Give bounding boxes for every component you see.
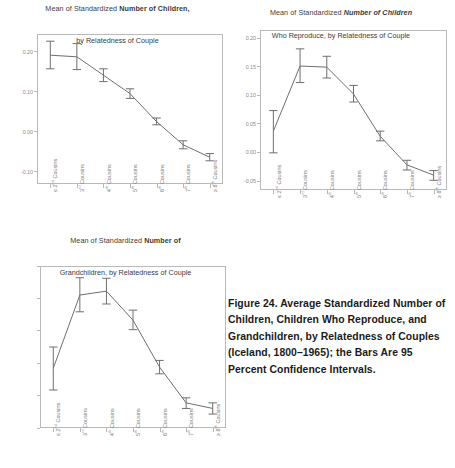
error-bar (209, 402, 217, 413)
plot-area-grandchildren: Grandchildren, by Relatedness of Couple … (23, 266, 228, 468)
chart-panel-number-of-children: Mean of Standardized Number of Children,… (10, 4, 225, 230)
series-line (53, 291, 212, 408)
chart-title-children-who-reproduce: Mean of Standardized Number of Children (233, 8, 449, 18)
chart-title-line-2: by Relatedness of Couple (10, 36, 225, 46)
title-text-plain: Mean of Standardized (45, 4, 119, 13)
title-text-bold: Relatedness of Couple (86, 36, 159, 45)
chart-title-line-1: Mean of Standardized Number of (23, 236, 228, 246)
title-text-plain: , by (105, 268, 119, 277)
title-text-bold: Number of (144, 236, 181, 245)
plot-area-children-who-reproduce: Who Reproduce, by Relatedness of Couple … (233, 30, 449, 260)
series-line (50, 55, 209, 157)
title-text-bold-italic: Number of Children (344, 8, 412, 17)
error-bar (99, 68, 107, 81)
chart-title-line-1: Mean of Standardized Number of Children (233, 8, 449, 18)
title-text-plain: by (76, 36, 86, 45)
chart-title-line-2: Who Reproduce, by Relatedness of Couple (233, 31, 449, 41)
title-text-plain: , by (324, 31, 338, 40)
title-text-bold: Relatedness of Couple (337, 31, 410, 40)
title-text-plain: Mean of Standardized (70, 236, 144, 245)
error-bar (129, 310, 137, 330)
data-series-children-who-reproduce (233, 30, 449, 196)
chart-panel-children-who-reproduce: Mean of Standardized Number of Children … (233, 8, 449, 230)
figure-caption: Figure 24. Average Standardized Number o… (228, 296, 446, 378)
error-bar (206, 153, 214, 160)
error-bar (429, 170, 437, 180)
title-text-bold: Number of Children, (119, 4, 189, 13)
chart-title-line-1: Mean of Standardized Number of Children, (10, 4, 225, 14)
title-text-plain: Mean of Standardized (270, 8, 344, 17)
error-bar (49, 347, 57, 390)
chart-title-number-of-children: Mean of Standardized Number of Children, (10, 4, 225, 14)
data-series-children (10, 34, 225, 190)
title-text-bold: Relatedness of Couple (119, 268, 192, 277)
chart-title-line-2: Grandchildren, by Relatedness of Couple (23, 268, 228, 278)
error-bar (269, 110, 277, 152)
plot-area-number-of-children: by Relatedness of Couple 0.200.100.00-0.… (10, 34, 225, 254)
chart-panel-grandchildren: Mean of Standardized Number of Grandchil… (23, 236, 228, 464)
title-text-bold-italic: Who Reproduce (272, 31, 324, 40)
title-text-bold: Grandchildren (60, 268, 105, 277)
chart-title-grandchildren: Mean of Standardized Number of (23, 236, 228, 246)
data-series-grandchildren (23, 266, 228, 434)
